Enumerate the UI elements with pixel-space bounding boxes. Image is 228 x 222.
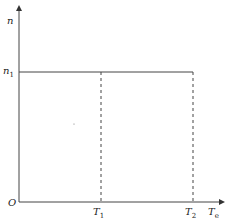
x-axis-label: Te [208, 207, 219, 220]
origin-label: O [8, 198, 16, 208]
y-tick-n1: n1 [3, 66, 14, 79]
y-axis-label: n [7, 16, 13, 26]
chart-canvas [0, 0, 228, 222]
x-tick-t2: T2 [185, 207, 196, 220]
x-tick-t1: T1 [93, 207, 104, 220]
